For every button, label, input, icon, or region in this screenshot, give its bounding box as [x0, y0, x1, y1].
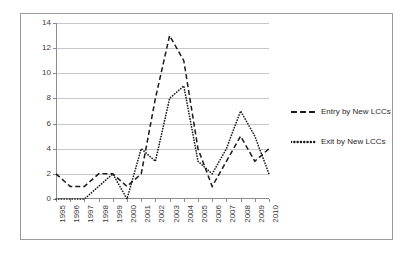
x-axis-tick-label: 1997 [87, 205, 95, 223]
series-line [56, 86, 269, 199]
x-axis-tick-mark [170, 199, 171, 202]
legend-item-label: Exit by New LCCs [321, 138, 385, 146]
x-axis-tick-label: 2000 [130, 205, 138, 223]
legend-item: Entry by New LCCs [291, 102, 391, 122]
x-axis-tick-label: 1998 [102, 205, 110, 223]
x-axis-tick-mark [212, 199, 213, 202]
legend-item-label: Entry by New LCCs [321, 108, 391, 116]
x-axis-tick-label: 2008 [244, 205, 252, 223]
chart-legend: Entry by New LCCsExit by New LCCs [291, 102, 391, 162]
legend-item: Exit by New LCCs [291, 132, 391, 152]
x-axis-tick-mark [241, 199, 242, 202]
x-axis-tick-label: 2001 [144, 205, 152, 223]
x-axis-tick-mark [184, 199, 185, 202]
y-axis-tick-label: 14 [42, 19, 51, 27]
x-axis-tick-label: 1999 [116, 205, 124, 223]
x-axis-tick-label: 1996 [73, 205, 81, 223]
x-axis-tick-label: 2004 [187, 205, 195, 223]
x-axis-tick-mark [226, 199, 227, 202]
x-axis-tick-mark [99, 199, 100, 202]
x-axis-tick-mark [113, 199, 114, 202]
x-axis-tick-mark [127, 199, 128, 202]
x-axis-tick-label: 2002 [158, 205, 166, 223]
y-axis-tick-label: 2 [47, 170, 51, 178]
y-axis-tick-label: 6 [47, 120, 51, 128]
x-axis-tick-mark [141, 199, 142, 202]
x-axis-tick-mark [198, 199, 199, 202]
x-axis-tick-label: 1995 [59, 205, 67, 223]
y-axis-tick-label: 8 [47, 94, 51, 102]
x-axis-tick-mark [155, 199, 156, 202]
legend-swatch-dashed-icon [291, 107, 317, 117]
legend-swatch-dotted-icon [291, 137, 317, 147]
y-axis-tick-label: 12 [42, 44, 51, 52]
y-axis-tick-label: 4 [47, 145, 51, 153]
x-axis-tick-label: 2006 [215, 205, 223, 223]
series-line [56, 36, 269, 187]
x-axis-tick-mark [70, 199, 71, 202]
y-axis-tick-label: 0 [47, 195, 51, 203]
series-lines [56, 23, 269, 199]
chart-figure: 02468101214 1995199619971998199920002001… [20, 13, 393, 240]
x-axis-tick-mark [269, 199, 270, 202]
x-axis-tick-label: 2007 [229, 205, 237, 223]
x-axis-tick-label: 2009 [258, 205, 266, 223]
y-axis-tick-label: 10 [42, 69, 51, 77]
x-axis-tick-mark [84, 199, 85, 202]
x-axis-tick-label: 2003 [173, 205, 181, 223]
x-axis-tick-mark [255, 199, 256, 202]
x-axis-tick-label: 2010 [272, 205, 280, 223]
x-axis-tick-label: 2005 [201, 205, 209, 223]
plot-area: 02468101214 1995199619971998199920002001… [56, 23, 269, 199]
